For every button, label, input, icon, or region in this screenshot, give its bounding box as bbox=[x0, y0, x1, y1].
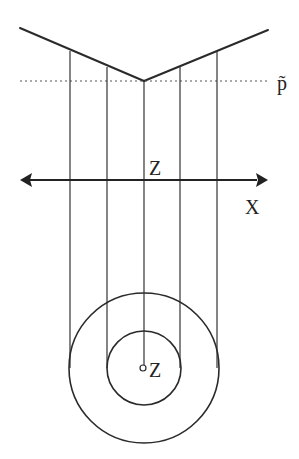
label-center-z: Z bbox=[149, 359, 161, 381]
label-axis-x: X bbox=[245, 196, 260, 218]
v-profile-left-edge bbox=[20, 28, 144, 81]
projection-lines bbox=[70, 51, 217, 368]
center-point-icon bbox=[140, 365, 146, 371]
label-p-tilde: p̃ bbox=[277, 72, 287, 95]
v-profile bbox=[20, 28, 268, 81]
v-profile-right-edge bbox=[144, 30, 268, 81]
label-axis-z: Z bbox=[149, 157, 161, 179]
diagram-canvas: p̃ Z X Z bbox=[0, 0, 299, 459]
arrowhead-right-icon bbox=[256, 173, 268, 187]
